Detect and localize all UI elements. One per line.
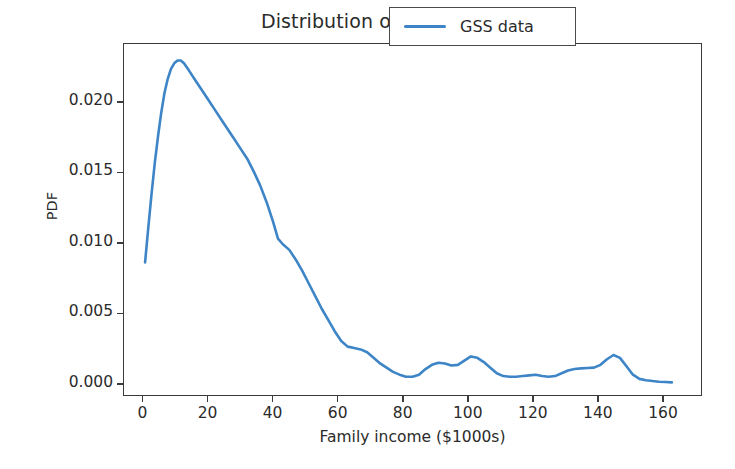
x-tick-label: 20 <box>173 404 243 422</box>
x-tick-mark <box>532 396 534 402</box>
chart-title: Distribution of income <box>0 10 735 32</box>
x-tick-label: 140 <box>563 404 633 422</box>
legend-label-gss-data: GSS data <box>460 17 534 36</box>
y-tick-mark <box>117 172 123 174</box>
x-tick-label: 120 <box>498 404 568 422</box>
legend-box: GSS data <box>389 7 576 46</box>
x-tick-mark <box>142 396 144 402</box>
series-line-gss-data <box>145 61 672 383</box>
y-tick-mark <box>117 101 123 103</box>
y-tick-label: 0.020 <box>0 91 113 109</box>
x-tick-mark <box>402 396 404 402</box>
y-tick-label: 0.000 <box>0 373 113 391</box>
data-line-svg <box>124 44 701 395</box>
x-tick-label: 0 <box>108 404 178 422</box>
x-tick-mark <box>467 396 469 402</box>
x-tick-label: 40 <box>238 404 308 422</box>
y-tick-mark <box>117 242 123 244</box>
figure-canvas: Distribution of income PDF 0.0000.0050.0… <box>0 0 735 469</box>
x-tick-mark <box>337 396 339 402</box>
y-tick-label: 0.010 <box>0 232 113 250</box>
x-tick-label: 100 <box>433 404 503 422</box>
x-tick-mark <box>207 396 209 402</box>
x-tick-label: 60 <box>303 404 373 422</box>
x-tick-mark <box>272 396 274 402</box>
x-axis-label: Family income ($1000s) <box>123 428 702 446</box>
x-tick-mark <box>662 396 664 402</box>
legend-line-swatch <box>404 25 446 28</box>
x-tick-label: 80 <box>368 404 438 422</box>
x-tick-mark <box>597 396 599 402</box>
y-tick-label: 0.005 <box>0 302 113 320</box>
y-tick-mark <box>117 383 123 385</box>
y-tick-label: 0.015 <box>0 161 113 179</box>
y-tick-mark <box>117 313 123 315</box>
plot-area <box>123 43 702 396</box>
x-tick-label: 160 <box>628 404 698 422</box>
